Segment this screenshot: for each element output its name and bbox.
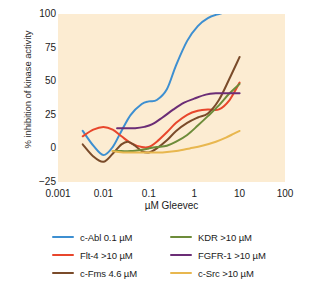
legend-color-swatch [52, 272, 74, 275]
legend-column-left: c-Abl 0.1 µMFlt-4 >10 µMc-Fms 4.6 µM [52, 228, 137, 282]
plot-curves [58, 14, 285, 182]
y-tick-label: 75 [16, 42, 56, 53]
legend-item-label: KDR >10 µM [198, 232, 252, 243]
chart-plot-region: % inhibition of kinase activity 10075502… [0, 0, 309, 212]
legend-color-swatch [170, 254, 192, 257]
legend-color-swatch [170, 272, 192, 275]
x-tick-label: 100 [255, 188, 309, 199]
legend-column-right: KDR >10 µMFGFR-1 >10 µMc-Src >10 µM [170, 228, 266, 282]
chart-legend: c-Abl 0.1 µMFlt-4 >10 µMc-Fms 4.6 µM KDR… [0, 228, 309, 290]
legend-item: c-Src >10 µM [170, 264, 266, 282]
legend-color-swatch [52, 236, 74, 239]
y-tick-label: 0 [16, 142, 56, 153]
x-axis-title: µM Gleevec [58, 200, 285, 211]
legend-item-label: FGFR-1 >10 µM [198, 250, 266, 261]
series-line [83, 14, 240, 155]
legend-item: KDR >10 µM [170, 228, 266, 246]
legend-color-swatch [170, 236, 192, 239]
legend-item: c-Abl 0.1 µM [52, 228, 137, 246]
y-tick-label: 100 [16, 8, 56, 19]
kinase-inhibition-figure: % inhibition of kinase activity 10075502… [0, 0, 309, 294]
legend-item-label: c-Abl 0.1 µM [80, 232, 132, 243]
legend-item-label: Flt-4 >10 µM [80, 250, 133, 261]
legend-color-swatch [52, 254, 74, 257]
legend-item: Flt-4 >10 µM [52, 246, 137, 264]
y-tick-label: 50 [16, 75, 56, 86]
y-tick-label: 25 [16, 109, 56, 120]
legend-item: FGFR-1 >10 µM [170, 246, 266, 264]
legend-item-label: c-Fms 4.6 µM [80, 268, 137, 279]
legend-item-label: c-Src >10 µM [198, 268, 254, 279]
legend-item: c-Fms 4.6 µM [52, 264, 137, 282]
y-tick-label: −25 [16, 176, 56, 187]
